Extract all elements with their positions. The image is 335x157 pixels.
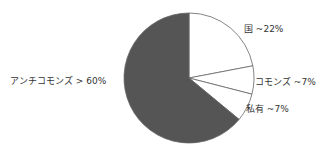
label-state: 国 ~22%	[244, 22, 283, 35]
label-private: 私有 ~7%	[246, 102, 289, 115]
label-commons: コモンズ ~7%	[255, 75, 316, 88]
label-anticommons: アンチコモンズ > 60%	[10, 74, 106, 87]
